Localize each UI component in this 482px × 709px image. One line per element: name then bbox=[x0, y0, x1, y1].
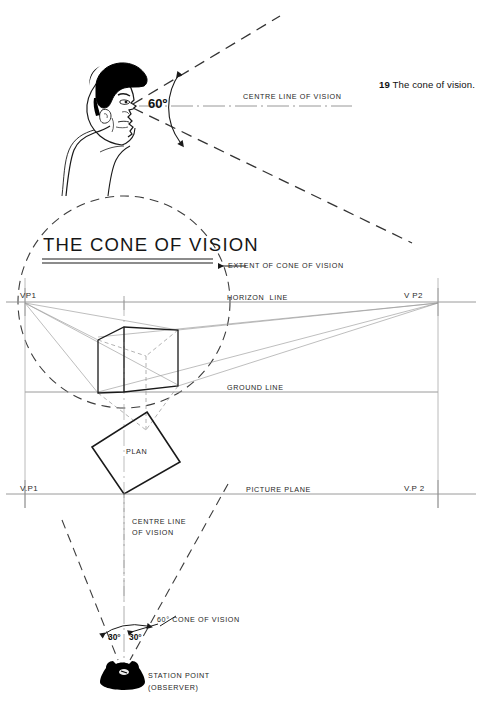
title-underline bbox=[42, 259, 213, 263]
page-title: THE CONE OF VISION bbox=[43, 234, 259, 256]
figure-cone-of-vision: 19 The cone of vision. 60º CENTRE LINE O… bbox=[0, 0, 482, 709]
cone-of-vision-60-label: 60° CONE OF VISION bbox=[157, 616, 240, 624]
extent-of-cone-label: EXTENT OF CONE OF VISION bbox=[228, 262, 344, 270]
vertical-guides bbox=[25, 278, 438, 600]
half-angle-left-label: 30° bbox=[108, 632, 121, 642]
vp1-label-plan: V.P1 bbox=[20, 484, 38, 493]
vp2-label-plan: V.P 2 bbox=[404, 484, 425, 493]
centre-line-of-vision-label-plan-1: CENTRE LINE bbox=[132, 518, 186, 526]
figure-caption-number: 19 bbox=[379, 79, 390, 90]
vp2-label-horizon: V P2 bbox=[404, 291, 423, 300]
station-point-label-1: STATION POINT bbox=[148, 672, 210, 680]
observer-head-profile bbox=[62, 63, 147, 196]
station-point-silhouette bbox=[100, 661, 145, 690]
centre-line-of-vision-label-plan-2: OF VISION bbox=[132, 529, 174, 537]
angle-label-60-head: 60º bbox=[148, 96, 167, 111]
cone-rays-plan bbox=[62, 484, 228, 660]
station-point-label-2: (OBSERVER) bbox=[148, 684, 199, 692]
half-angle-right-label: 30° bbox=[129, 632, 142, 642]
vp1-label-horizon: VP1 bbox=[20, 291, 36, 300]
figure-caption: 19 The cone of vision. bbox=[368, 68, 475, 101]
figure-caption-text: The cone of vision. bbox=[393, 79, 475, 90]
centre-line-of-vision-label-upper: CENTRE LINE OF VISION bbox=[243, 93, 341, 101]
picture-plane-label: PICTURE PLANE bbox=[246, 486, 311, 494]
plan-label: PLAN bbox=[126, 448, 147, 456]
ground-line-label: GROUND LINE bbox=[227, 384, 284, 392]
cone-rays-upper bbox=[133, 16, 412, 243]
diagram-canvas bbox=[0, 0, 482, 709]
horizon-line-label: HORIZON LINE bbox=[227, 294, 288, 302]
perspective-construction-lines bbox=[25, 303, 438, 393]
